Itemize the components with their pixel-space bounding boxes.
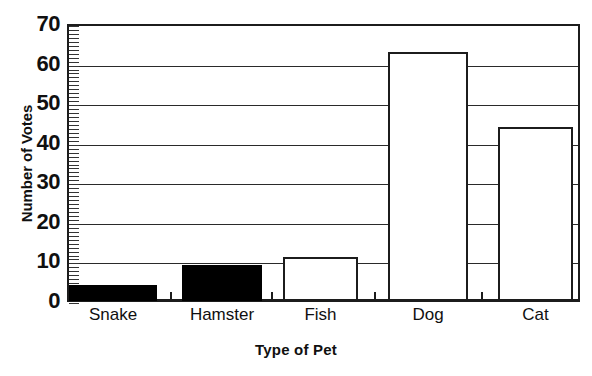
y-axis-minor-tick (69, 275, 79, 276)
y-axis-minor-tick (69, 271, 79, 272)
y-axis-minor-tick (69, 101, 79, 102)
y-axis-minor-tick (69, 279, 79, 280)
y-axis-minor-tick (69, 54, 79, 55)
y-axis-minor-tick (69, 220, 79, 221)
y-axis-minor-tick (69, 267, 79, 268)
gridline (69, 66, 578, 67)
y-axis-minor-tick (69, 70, 79, 71)
y-axis-minor-tick (69, 105, 79, 106)
y-axis-minor-tick (69, 85, 79, 86)
bar-hamster (182, 265, 262, 301)
y-axis-minor-tick (69, 121, 79, 122)
y-axis-minor-tick (69, 165, 79, 166)
bar-snake (69, 285, 157, 301)
y-axis-minor-tick (69, 62, 79, 63)
y-axis-minor-tick (69, 263, 79, 264)
y-axis-minor-tick (69, 240, 79, 241)
y-axis-tick-label: 60 (20, 53, 60, 75)
y-axis-tick-label: 40 (20, 132, 60, 154)
y-axis-minor-tick (69, 236, 79, 237)
y-axis-minor-tick (69, 153, 79, 154)
y-axis-minor-tick (69, 129, 79, 130)
gridline (69, 105, 578, 106)
bar-cat (498, 127, 573, 301)
y-axis-minor-tick (69, 113, 79, 114)
bar-fish (283, 257, 358, 301)
y-axis-minor-tick (69, 34, 79, 35)
y-axis-minor-tick (69, 244, 79, 245)
x-axis-tick (271, 292, 273, 301)
x-axis-tick (374, 292, 376, 301)
y-axis-minor-tick (69, 192, 79, 193)
y-axis-tick-label: 70 (20, 13, 60, 35)
y-axis-minor-tick (69, 172, 79, 173)
y-axis-minor-tick (69, 212, 79, 213)
y-axis-minor-tick (69, 283, 79, 284)
y-axis-minor-tick (69, 30, 79, 31)
y-axis-minor-tick (69, 93, 79, 94)
y-axis-minor-tick (69, 259, 79, 260)
y-axis-minor-tick (69, 157, 79, 158)
y-axis-minor-tick (69, 256, 79, 257)
x-axis-tick-label: Cat (458, 306, 592, 323)
y-axis-minor-tick (69, 204, 79, 205)
y-axis-minor-tick (69, 161, 79, 162)
y-axis-minor-tick (69, 58, 79, 59)
y-axis-minor-tick (69, 141, 79, 142)
y-axis-minor-tick (69, 176, 79, 177)
y-axis-minor-tick (69, 46, 79, 47)
y-axis-minor-tick (69, 184, 79, 185)
y-axis-minor-tick (69, 117, 79, 118)
y-axis-minor-tick (69, 97, 79, 98)
y-axis-minor-tick (69, 38, 79, 39)
x-axis-tick (170, 292, 172, 301)
y-axis-minor-tick (69, 303, 79, 304)
y-axis-minor-tick (69, 224, 79, 225)
y-axis-minor-tick (69, 252, 79, 253)
y-axis-minor-tick (69, 125, 79, 126)
y-axis-minor-tick (69, 228, 79, 229)
y-axis-minor-tick (69, 180, 79, 181)
x-axis-title: Type of Pet (0, 341, 592, 358)
y-axis-minor-tick (69, 149, 79, 150)
y-axis-tick-label: 30 (20, 171, 60, 193)
y-axis-minor-tick (69, 208, 79, 209)
y-axis-tick-label: 20 (20, 211, 60, 233)
y-axis-minor-tick (69, 137, 79, 138)
bar-dog (388, 52, 468, 301)
y-axis-minor-tick (69, 216, 79, 217)
y-axis-minor-tick (69, 248, 79, 249)
y-axis-minor-tick (69, 200, 79, 201)
y-axis-tick-label: 10 (20, 250, 60, 272)
y-axis-minor-tick (69, 188, 79, 189)
y-axis-minor-tick (69, 73, 79, 74)
y-axis-minor-tick (69, 26, 79, 27)
y-axis-minor-tick (69, 66, 79, 67)
y-axis-minor-tick (69, 50, 79, 51)
bar-chart-figure: Number of Votes 010203040506070 SnakeHam… (0, 0, 592, 376)
y-axis-minor-tick (69, 81, 79, 82)
y-axis-minor-tick (69, 109, 79, 110)
y-axis-minor-tick (69, 232, 79, 233)
y-axis-minor-tick (69, 145, 79, 146)
y-axis-minor-tick (69, 168, 79, 169)
x-axis-tick (481, 292, 483, 301)
y-axis-tick-label: 50 (20, 92, 60, 114)
y-axis-minor-tick (69, 42, 79, 43)
y-axis-minor-tick (69, 196, 79, 197)
y-axis-minor-tick (69, 133, 79, 134)
y-axis-minor-tick (69, 89, 79, 90)
y-axis-minor-tick (69, 77, 79, 78)
